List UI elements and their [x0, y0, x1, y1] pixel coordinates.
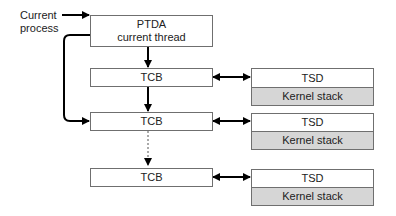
kernel-stack-label: Kernel stack: [282, 134, 343, 147]
tcb-label: TCB: [141, 71, 163, 84]
tcb-box-1: TCB: [90, 68, 213, 87]
tsd-box-2: TSD: [251, 113, 374, 132]
tsd-box-1: TSD: [251, 68, 374, 88]
tcb-label: TCB: [141, 171, 163, 184]
tsd-box-3: TSD: [251, 169, 374, 188]
current-process-label: Current process: [20, 9, 59, 35]
tsd-label: TSD: [302, 172, 324, 185]
ptda-box: PTDA current thread: [90, 15, 213, 47]
kernel-stack-label: Kernel stack: [282, 190, 343, 203]
tsd-label: TSD: [302, 116, 324, 129]
kernel-stack-box-1: Kernel stack: [251, 87, 374, 106]
tcb-label: TCB: [141, 115, 163, 128]
kernel-stack-box-3: Kernel stack: [251, 187, 374, 206]
ptda-title: PTDA: [137, 18, 166, 31]
tcb-box-2: TCB: [90, 112, 213, 131]
kernel-stack-box-2: Kernel stack: [251, 131, 374, 150]
tcb-box-3: TCB: [90, 168, 213, 187]
current-process-line1: Current: [20, 9, 59, 22]
ptda-subtitle: current thread: [117, 31, 185, 44]
kernel-stack-label: Kernel stack: [282, 90, 343, 103]
current-process-line2: process: [20, 22, 59, 35]
tsd-label: TSD: [302, 72, 324, 85]
